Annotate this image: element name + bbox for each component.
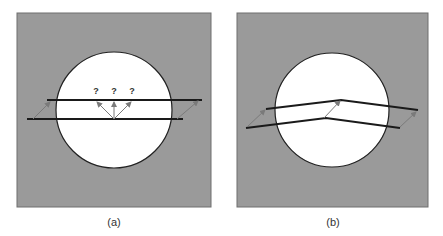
question-mark-left: ? [91,86,101,96]
caption-a: (a) [94,216,134,228]
question-mark-right: ? [127,86,137,96]
figure-canvas [0,0,443,236]
caption-b: (b) [313,216,353,228]
panel-b [237,13,428,207]
panel-a [17,13,211,207]
question-mark-middle: ? [109,86,119,96]
